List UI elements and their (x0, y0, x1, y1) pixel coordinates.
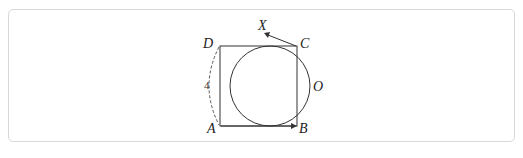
label-x: X (257, 18, 267, 33)
geometry-diagram: X D C O A B 4 (0, 0, 523, 158)
circle-o (230, 46, 310, 126)
arrowhead-b (291, 123, 297, 129)
label-a: A (206, 121, 216, 136)
label-d: D (202, 36, 213, 51)
square-abcd (220, 46, 297, 126)
dimension-arc (209, 47, 219, 125)
vector-cx (268, 35, 296, 46)
label-o: O (313, 79, 323, 94)
label-c: C (300, 36, 310, 51)
side-length-label: 4 (204, 79, 210, 91)
label-b: B (299, 121, 308, 136)
